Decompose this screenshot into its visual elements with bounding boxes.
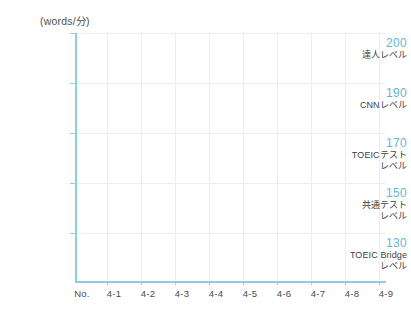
x-axis-tick-label: 4-4 xyxy=(209,288,223,299)
x-axis-tick-label: 4-3 xyxy=(175,288,189,299)
gridline-vertical xyxy=(141,33,142,281)
x-axis-tick-label: 4-5 xyxy=(243,288,257,299)
x-axis-tick-label: 4-7 xyxy=(311,288,325,299)
gridline-horizontal xyxy=(77,83,385,84)
x-tick-mark xyxy=(107,281,108,285)
y-tick-level-name: 共通テスト レベル xyxy=(338,200,407,221)
y-tick-value: 130 xyxy=(338,236,407,250)
x-tick-mark xyxy=(209,281,210,285)
x-tick-mark xyxy=(175,281,176,285)
x-tick-mark xyxy=(311,281,312,285)
y-axis-unit-label: (words/分) xyxy=(40,13,90,28)
x-tick-mark xyxy=(277,281,278,285)
y-tick-value: 170 xyxy=(338,136,407,150)
y-tick-mark xyxy=(70,133,76,134)
x-axis-prefix-label: No. xyxy=(74,288,89,299)
y-axis-tick-150: 150 共通テスト レベル xyxy=(338,186,411,221)
gridline-horizontal xyxy=(77,133,385,134)
x-axis-tick-label: 4-1 xyxy=(107,288,121,299)
gridline-horizontal xyxy=(77,233,385,234)
gridline-horizontal xyxy=(77,183,385,184)
gridline-horizontal xyxy=(77,33,385,34)
x-axis-tick-label: 4-8 xyxy=(345,288,359,299)
x-tick-mark xyxy=(141,281,142,285)
y-tick-level-name: CNNレベル xyxy=(338,100,407,111)
x-axis-tick-label: 4-6 xyxy=(277,288,291,299)
y-tick-mark xyxy=(70,83,76,84)
y-tick-value: 200 xyxy=(338,36,407,50)
x-tick-mark xyxy=(243,281,244,285)
gridline-vertical xyxy=(277,33,278,281)
y-axis-tick-130: 130 TOEIC Bridge レベル xyxy=(338,236,411,271)
x-tick-mark xyxy=(345,281,346,285)
gridline-vertical xyxy=(107,33,108,281)
x-axis-tick-label: 4-2 xyxy=(141,288,155,299)
x-axis-line xyxy=(75,281,386,283)
y-tick-mark xyxy=(70,233,76,234)
y-tick-level-name: TOEICテスト レベル xyxy=(338,150,407,171)
gridline-vertical xyxy=(209,33,210,281)
y-tick-mark xyxy=(70,183,76,184)
y-tick-value: 150 xyxy=(338,186,407,200)
chart-root: (words/分) 200 達人レベル 190 CNNレベル 170 TOEIC… xyxy=(0,0,411,314)
gridline-vertical xyxy=(311,33,312,281)
y-axis-tick-170: 170 TOEICテスト レベル xyxy=(338,136,411,171)
gridline-vertical xyxy=(243,33,244,281)
x-tick-mark xyxy=(379,281,380,285)
y-axis-tick-190: 190 CNNレベル xyxy=(338,86,411,111)
x-axis-tick-label: 4-9 xyxy=(379,288,393,299)
y-axis-tick-200: 200 達人レベル xyxy=(338,36,411,61)
y-tick-mark xyxy=(70,33,76,34)
y-axis-line xyxy=(75,33,77,282)
y-tick-level-name: TOEIC Bridge レベル xyxy=(338,250,407,271)
y-tick-level-name: 達人レベル xyxy=(338,50,407,61)
y-tick-value: 190 xyxy=(338,86,407,100)
gridline-vertical xyxy=(175,33,176,281)
